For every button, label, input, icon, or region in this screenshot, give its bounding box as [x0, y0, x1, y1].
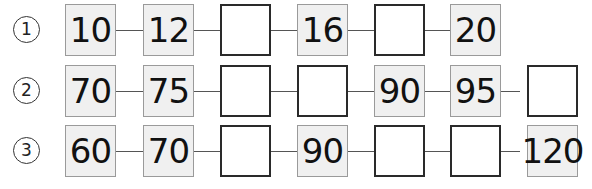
answer-box[interactable]: [527, 65, 578, 117]
answer-box[interactable]: [220, 4, 271, 56]
sequence-row-1: 1 10 12 16 20: [0, 4, 592, 58]
given-box: 90: [297, 125, 348, 177]
given-box: 12: [143, 4, 194, 56]
given-box: 90: [374, 65, 425, 117]
given-box: 70: [65, 65, 116, 117]
row-number: 3: [13, 137, 40, 164]
given-box: 70: [143, 125, 194, 177]
sequence-row-3: 3 60 70 90 120: [0, 125, 592, 179]
row-number: 2: [13, 77, 40, 104]
answer-box[interactable]: [220, 125, 271, 177]
given-box: 95: [450, 65, 501, 117]
given-box: 20: [450, 4, 501, 56]
row-number: 1: [13, 16, 40, 43]
answer-box[interactable]: [374, 4, 425, 56]
given-box: 60: [65, 125, 116, 177]
answer-box[interactable]: [220, 65, 271, 117]
given-box: 120: [527, 125, 578, 177]
given-box: 16: [297, 4, 348, 56]
answer-box[interactable]: [450, 125, 501, 177]
answer-box[interactable]: [374, 125, 425, 177]
answer-box[interactable]: [297, 65, 348, 117]
sequence-row-2: 2 70 75 90 95: [0, 65, 592, 119]
given-box: 10: [65, 4, 116, 56]
given-box: 75: [143, 65, 194, 117]
